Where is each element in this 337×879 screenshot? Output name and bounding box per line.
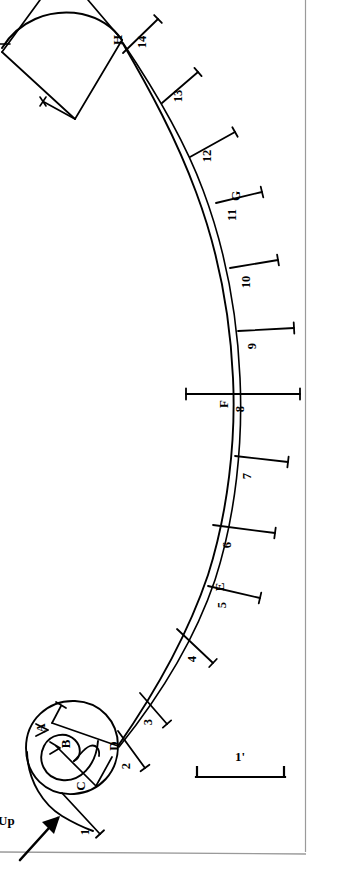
ray-number-7: 7 bbox=[240, 473, 254, 479]
ray-line-9 bbox=[238, 328, 294, 331]
ray-number-6: 6 bbox=[220, 542, 234, 548]
up-label: Up bbox=[0, 813, 15, 828]
point-letter-labels-layer: ABCDEFGH bbox=[33, 35, 243, 791]
point-label-A: A bbox=[33, 723, 48, 733]
point-label-D: D bbox=[106, 741, 121, 750]
ray-number-12: 12 bbox=[200, 150, 214, 163]
scale-bar-group: 1' bbox=[196, 749, 285, 777]
ray-tick-5 bbox=[259, 593, 261, 604]
point-label-F: F bbox=[216, 400, 231, 408]
ray-A-stub bbox=[52, 706, 61, 723]
ray-9 bbox=[238, 323, 294, 334]
point-label-H: H bbox=[110, 35, 125, 45]
drawing-sheet: 1234567891011121314 ABCDEFGH Up 1' bbox=[0, 0, 337, 879]
point-label-B: B bbox=[58, 739, 73, 748]
ray-number-3: 3 bbox=[141, 719, 155, 725]
ray-7 bbox=[235, 456, 289, 467]
point-label-E: E bbox=[212, 583, 227, 592]
ray-6 bbox=[213, 525, 276, 538]
construction-line-d bbox=[88, 0, 122, 40]
ray-line-2 bbox=[118, 731, 145, 768]
scale-bar-label: 1' bbox=[235, 749, 245, 764]
ray-line-6 bbox=[213, 525, 275, 533]
ray-number-8: 8 bbox=[233, 406, 247, 412]
ray-8 bbox=[186, 389, 300, 400]
construction-line-c bbox=[75, 40, 122, 119]
ray-number-9: 9 bbox=[245, 343, 259, 349]
construction-tick-serif bbox=[40, 97, 46, 106]
construction-line-b bbox=[2, 52, 75, 119]
ray-tick-2 bbox=[141, 765, 150, 771]
ray-10 bbox=[230, 255, 279, 268]
ray-number-5: 5 bbox=[215, 602, 229, 608]
ray-number-11: 11 bbox=[225, 209, 239, 221]
ray-tick-11 bbox=[261, 187, 264, 198]
ray-number-2: 2 bbox=[119, 763, 133, 769]
ray-line-10 bbox=[230, 260, 278, 268]
volute-spiral-group bbox=[26, 701, 118, 831]
ray-tick-7 bbox=[287, 457, 288, 468]
ray-number-4: 4 bbox=[185, 655, 199, 662]
ray-number-14: 14 bbox=[135, 35, 149, 48]
ray-line-7 bbox=[235, 456, 288, 462]
ray-tick-12 bbox=[232, 127, 237, 137]
ray-number-1: 1 bbox=[78, 829, 92, 835]
ray-line-1 bbox=[62, 793, 100, 834]
ray-tick-9 bbox=[294, 323, 295, 334]
ray-number-13: 13 bbox=[171, 90, 185, 103]
ray-tick-6 bbox=[274, 528, 275, 539]
ray-tick-10 bbox=[277, 255, 279, 266]
point-label-G: G bbox=[228, 191, 243, 201]
top-arc-construction-group bbox=[0, 0, 122, 119]
profile-drawing-canvas: 1234567891011121314 ABCDEFGH Up 1' bbox=[0, 0, 337, 879]
ray-number-10: 10 bbox=[239, 276, 253, 289]
point-label-C: C bbox=[73, 781, 88, 790]
